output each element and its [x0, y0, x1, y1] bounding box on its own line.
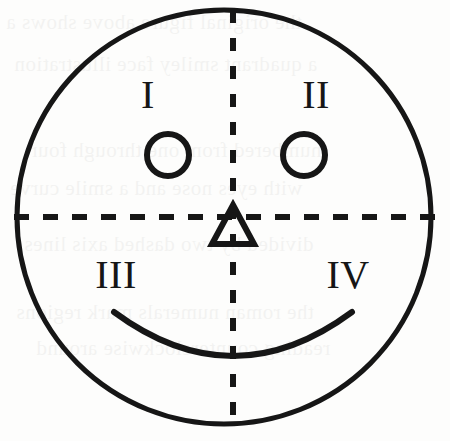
quadrant-label-iii: III [95, 252, 136, 297]
right-eye-circle [283, 134, 325, 176]
quadrant-label-i: I [141, 72, 155, 117]
quadrant-face-diagram: I II III IV [0, 0, 450, 441]
figure-root: the original figure above shows aa quadr… [0, 0, 450, 441]
left-eye-circle [147, 134, 189, 176]
quadrant-label-iv: IV [326, 252, 369, 297]
quadrant-label-ii: II [302, 72, 330, 117]
